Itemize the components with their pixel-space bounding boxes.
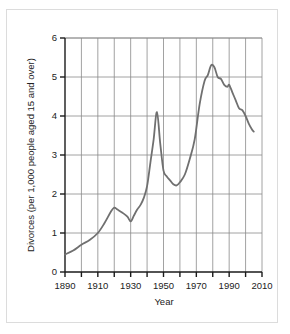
x-tick-label: 1890: [54, 280, 75, 291]
chart-figure: 01234561890191019301950197019902010 Divo…: [0, 0, 290, 334]
data-series: [65, 65, 254, 255]
data-line-divorce-rate: [65, 65, 254, 255]
y-tick-label: 6: [52, 32, 57, 43]
y-tick-label: 5: [52, 71, 57, 82]
x-tick-label: 1930: [120, 280, 141, 291]
x-tick-label: 1990: [219, 280, 240, 291]
x-tick-label: 1970: [186, 280, 207, 291]
x-tick-label: 2010: [251, 280, 272, 291]
y-tick-label: 0: [52, 266, 57, 277]
y-axis-title: Divorces (per 1,000 people aged 15 and o…: [25, 58, 36, 252]
y-tick-label: 3: [52, 149, 57, 160]
x-tick-label: 1910: [87, 280, 108, 291]
divorce-rate-line-chart: 01234561890191019301950197019902010 Divo…: [0, 0, 290, 334]
x-tick-label: 1950: [153, 280, 174, 291]
x-axis-title: Year: [154, 296, 173, 307]
y-tick-label: 1: [52, 227, 57, 238]
y-tick-label: 2: [52, 188, 57, 199]
y-tick-label: 4: [52, 110, 57, 121]
